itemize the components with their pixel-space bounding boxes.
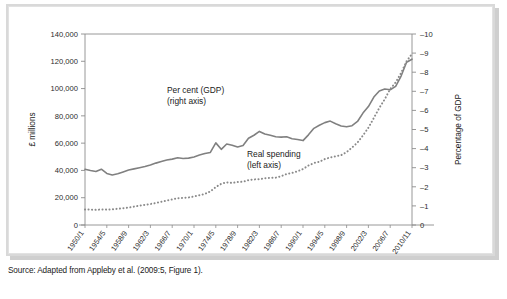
y2-axis-tick-label: –8 — [420, 68, 428, 77]
y-axis-tick-label: 40,000 — [55, 166, 78, 175]
y2-axis-tick-label: –3 — [420, 163, 428, 172]
y-axis-tick-label: 100,000 — [51, 84, 78, 93]
y2-axis-tick-label: 0 — [420, 221, 424, 230]
y2-axis-tick-label: –1 — [420, 202, 428, 211]
x-axis-tick-label: 1954/5 — [87, 229, 107, 253]
annotation-real-spending-line2: (left axis) — [247, 160, 281, 170]
y2-axis-tick-label: –2 — [420, 183, 428, 192]
y2-axis-title: Percentage of GDP — [454, 93, 463, 165]
y2-axis-tick-label: –9 — [420, 49, 428, 58]
x-axis-tick-label: 1974/5 — [196, 229, 216, 253]
y-axis-tick-label: 80,000 — [55, 112, 78, 121]
series-line-real-spending — [85, 54, 412, 210]
annotation-real-spending-line1: Real spending — [247, 149, 301, 159]
figure-panel: 020,00040,00060,00080,000100,000120,0001… — [8, 6, 493, 254]
y2-axis-tick-label: –10 — [420, 30, 433, 39]
y2-axis-tick-label: –4 — [420, 144, 428, 153]
y-axis-tick-label: 140,000 — [51, 30, 78, 39]
x-axis-tick-label: 1950/1 — [65, 229, 85, 253]
x-axis-tick-label: 1998/9 — [327, 229, 347, 253]
y2-axis-tick-label: –6 — [420, 106, 428, 115]
y2-axis-tick-label: –5 — [420, 125, 428, 134]
x-axis-tick-label: 1958/9 — [109, 229, 129, 253]
figure-root: 020,00040,00060,00080,000100,000120,0001… — [0, 0, 507, 299]
y-axis-tick-label: 0 — [74, 221, 78, 230]
x-axis-tick-label: 1962/3 — [131, 229, 151, 253]
x-axis-tick-label: 1994/5 — [305, 229, 325, 253]
y2-axis-tick-label: –7 — [420, 87, 428, 96]
x-axis-tick-label: 1990/1 — [283, 229, 303, 253]
source-note: Source: Adapted from Appleby et al. (200… — [8, 266, 488, 275]
annotation-per-cent-gdp-line1: Per cent (GDP) — [167, 85, 224, 95]
x-axis-tick-label: 1970/1 — [174, 229, 194, 253]
x-axis-tick-label: 1966/7 — [152, 229, 172, 253]
line-chart: 020,00040,00060,00080,000100,000120,0001… — [9, 7, 494, 255]
plot-area: 020,00040,00060,00080,000100,000120,0001… — [9, 7, 494, 255]
y-axis-title: £ millions — [28, 112, 37, 146]
x-axis-tick-label: 2006/7 — [370, 229, 390, 253]
x-axis-tick-label: 1982/3 — [240, 229, 260, 253]
x-axis-tick-label: 1986/7 — [261, 229, 281, 253]
x-axis-tick-label: 2010/11 — [390, 229, 412, 255]
y-axis-tick-label: 20,000 — [55, 193, 78, 202]
annotation-per-cent-gdp-line2: (right axis) — [167, 96, 206, 106]
plot-frame — [85, 34, 412, 225]
y-axis-tick-label: 120,000 — [51, 57, 78, 66]
y-axis-tick-label: 60,000 — [55, 139, 78, 148]
x-axis-tick-label: 1978/9 — [218, 229, 238, 253]
x-axis-tick-label: 2002/3 — [349, 229, 369, 253]
